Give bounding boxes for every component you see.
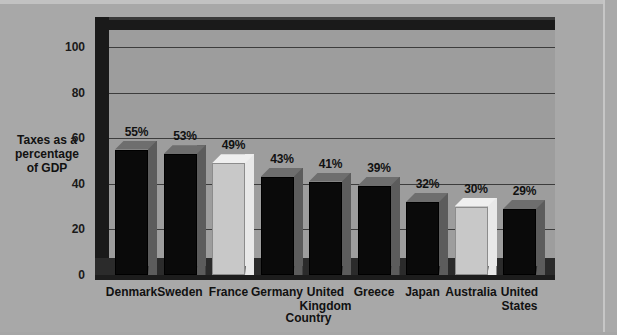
bar-series: 55%53%49%43%41%39%32%30%29%: [95, 17, 565, 280]
frame-right-edge: [604, 0, 617, 335]
bar[interactable]: 53%: [164, 145, 197, 275]
bar-value-label: 30%: [464, 182, 487, 196]
bar[interactable]: 39%: [358, 177, 391, 275]
bar-value-label: 29%: [513, 184, 536, 198]
y-axis-tick-label: 60: [45, 131, 85, 145]
bar[interactable]: 43%: [261, 168, 294, 275]
bar[interactable]: 49%: [212, 154, 245, 275]
bar-side-body: [294, 168, 303, 266]
y-axis-tick-label: 0: [45, 268, 85, 282]
bar-front-face: [261, 177, 294, 275]
bar-side-body: [536, 200, 545, 266]
bar-front-face: [164, 154, 197, 275]
bar-front-face: [406, 202, 439, 275]
y-axis-title-line-3: of GDP: [4, 161, 90, 175]
bar-front-face: [503, 209, 536, 275]
bar-front-face: [115, 150, 148, 275]
bar-value-label: 39%: [367, 161, 390, 175]
bar-side-body: [439, 193, 448, 266]
bar[interactable]: 32%: [406, 193, 439, 275]
x-axis-tick-label: UnitedStates: [489, 285, 550, 313]
bar-side-body: [342, 173, 351, 266]
bar[interactable]: 41%: [309, 173, 342, 275]
y-axis-tick-label: 40: [45, 177, 85, 191]
bar-value-label: 41%: [319, 157, 342, 171]
y-axis-tick-label: 20: [45, 222, 85, 236]
bar-value-label: 43%: [270, 152, 293, 166]
bar-front-face: [212, 163, 245, 275]
bar-value-label: 53%: [173, 129, 196, 143]
frame-top-edge: [0, 0, 617, 4]
bar-front-face: [455, 207, 488, 275]
bar[interactable]: 30%: [455, 198, 488, 275]
bar-side-body: [391, 177, 400, 266]
y-axis-tick-label: 100: [45, 40, 85, 54]
bar-side-body: [488, 198, 497, 266]
bar-side-body: [197, 145, 206, 266]
bar-side-body: [148, 141, 157, 266]
frame-right-highlight: [603, 0, 605, 335]
bar-side-body: [245, 154, 254, 266]
bar-front-face: [358, 186, 391, 275]
bar-value-label: 49%: [222, 138, 245, 152]
bar-value-label: 32%: [416, 177, 439, 191]
bar[interactable]: 29%: [503, 200, 536, 275]
chart-screenshot: Taxes as a percentage of GDP 02040608010…: [0, 0, 617, 335]
x-axis-tick-label-line: United: [489, 285, 550, 299]
bar[interactable]: 55%: [115, 141, 148, 275]
bar-front-face: [309, 182, 342, 275]
y-axis-title-line-2: percentage: [4, 147, 90, 161]
y-axis-tick-label: 80: [45, 86, 85, 100]
bar-value-label: 55%: [125, 125, 148, 139]
x-axis-title: Country: [0, 311, 617, 325]
